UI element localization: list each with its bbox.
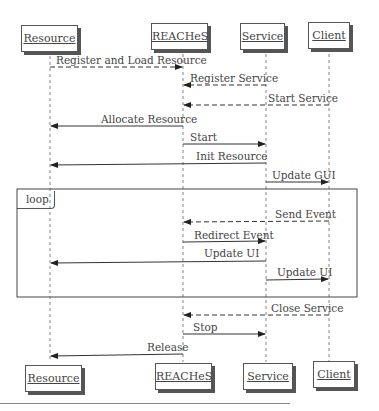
participant-client-bottom: Client (313, 361, 355, 388)
participant-service-bottom: Service (243, 363, 293, 390)
arrow-redirect-event (183, 241, 265, 242)
label-start: Start (190, 131, 217, 143)
label-release: Release (147, 341, 189, 353)
participant-resource-bottom: Resource (25, 365, 82, 392)
label-close-service: Close Service (271, 302, 343, 314)
arrow-init-resource (51, 163, 266, 165)
participant-service-top: Service (240, 23, 285, 50)
label-register-service: Register Service (190, 72, 278, 84)
label-register-and-load-resource: Register and Load Resource (56, 54, 207, 66)
participant-reaches-top: REACHeS (151, 23, 208, 50)
label-update-ui-resource: Update UI (204, 247, 259, 259)
label-update-gui: Update GUI (272, 169, 336, 181)
loop-fragment-frame (17, 189, 357, 297)
label-send-event: Send Event (275, 208, 336, 220)
participant-reaches-bottom: REACHeS (155, 363, 212, 390)
participant-resource-top: Resource (21, 25, 78, 52)
loop-fragment-label: loop (17, 191, 55, 209)
label-redirect-event: Redirect Event (194, 229, 274, 241)
arrow-update-ui-resource (51, 261, 266, 263)
label-stop: Stop (193, 321, 217, 333)
label-init-resource: Init Resource (196, 150, 268, 162)
arrow-send-event (184, 221, 329, 222)
label-allocate-resource: Allocate Resource (101, 113, 197, 125)
label-start-service: Start Service (268, 92, 338, 104)
arrow-release (51, 354, 183, 356)
participant-client-top: Client (308, 22, 350, 49)
arrow-update-ui-client (266, 279, 328, 280)
caption-divider (0, 403, 290, 404)
label-update-ui-client: Update UI (277, 266, 332, 278)
